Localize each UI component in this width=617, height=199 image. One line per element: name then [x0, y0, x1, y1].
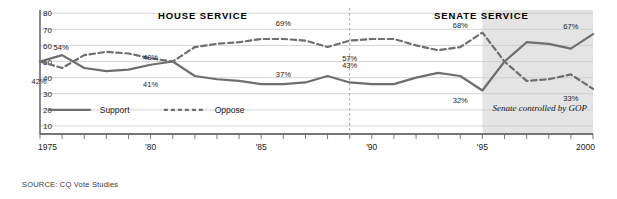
y-axis-label-70: 70 — [43, 26, 52, 35]
point-label-48: 48% — [143, 53, 158, 62]
gop-band-note: Senate controlled by GOP — [493, 103, 588, 113]
point-label-42: 42% — [31, 77, 46, 86]
point-label-67: 67% — [563, 22, 578, 31]
legend-label-support: Support — [100, 105, 130, 115]
x-axis-label-90: '90 — [366, 142, 377, 152]
source-note: SOURCE: CQ Vote Studies — [22, 180, 118, 189]
x-axis-label-80: '80 — [145, 142, 156, 152]
y-axis-label-10: 10 — [43, 122, 52, 131]
chart-container: 10203040506070801975'80'85'90'952000HOUS… — [0, 0, 617, 199]
x-axis-label-2000: 2000 — [576, 142, 595, 152]
y-axis-label-80: 80 — [43, 9, 52, 18]
point-label-54: 54% — [54, 43, 69, 52]
point-label-69: 69% — [276, 19, 291, 28]
point-label-57: 57% — [342, 54, 357, 63]
y-axis-label-30: 30 — [43, 90, 52, 99]
y-axis-label-60: 60 — [43, 42, 52, 51]
plot-area: 10203040506070801975'80'85'90'952000HOUS… — [22, 6, 595, 158]
point-label-32: 32% — [453, 96, 468, 105]
line-chart-svg: 10203040506070801975'80'85'90'952000HOUS… — [22, 6, 595, 158]
point-label-37: 37% — [276, 70, 291, 79]
point-label-68: 68% — [453, 21, 468, 30]
x-axis-label-1975: 1975 — [38, 142, 57, 152]
legend-label-oppose: Oppose — [215, 105, 245, 115]
x-axis-label-95: '95 — [477, 142, 488, 152]
x-axis-label-85: '85 — [256, 142, 267, 152]
house-era-title: HOUSE SERVICE — [158, 10, 248, 21]
senate-era-title: SENATE SERVICE — [434, 10, 529, 21]
point-label-33: 33% — [563, 94, 578, 103]
point-label-41: 41% — [143, 80, 158, 89]
